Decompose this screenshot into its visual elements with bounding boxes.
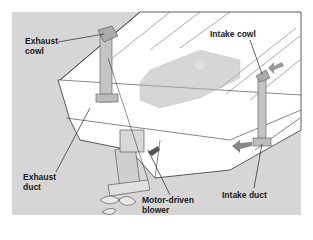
label-exhaust-cowl: Exhaust cowl (25, 37, 58, 56)
label-motor-driven-blower: Motor-driven blower (142, 196, 194, 215)
label-intake-duct: Intake duct (222, 191, 267, 201)
label-exhaust-duct: Exhaust duct (23, 173, 56, 192)
label-intake-cowl: Intake cowl (210, 30, 256, 40)
